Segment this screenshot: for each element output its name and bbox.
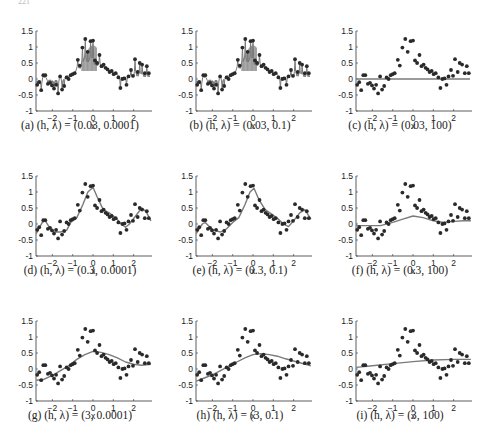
data-point xyxy=(467,216,471,220)
data-point xyxy=(303,216,307,220)
data-point xyxy=(403,182,407,186)
data-point xyxy=(37,370,41,374)
data-point xyxy=(380,233,384,237)
data-point xyxy=(376,382,380,386)
data-point xyxy=(243,182,247,186)
data-point xyxy=(212,87,216,91)
data-point xyxy=(145,209,149,213)
data-point xyxy=(296,360,300,364)
y-tick-label: -0.5 xyxy=(18,235,33,245)
data-point xyxy=(236,348,240,352)
data-point xyxy=(380,88,384,92)
data-point xyxy=(378,75,382,79)
data-point xyxy=(236,58,240,62)
data-point xyxy=(197,370,201,374)
data-point xyxy=(274,71,278,75)
data-point xyxy=(411,329,415,333)
data-point xyxy=(255,351,259,355)
y-tick-label: 1 xyxy=(348,42,353,52)
data-point xyxy=(285,228,289,232)
data-point xyxy=(39,88,43,92)
data-point xyxy=(241,46,245,50)
y-tick-label: 1 xyxy=(348,332,353,342)
data-point xyxy=(127,365,131,369)
data-point xyxy=(91,184,95,188)
data-point xyxy=(460,208,464,212)
y-tick-label: -0.5 xyxy=(338,235,353,245)
data-point xyxy=(456,215,460,219)
data-point xyxy=(287,220,291,224)
data-point xyxy=(262,63,266,67)
data-point xyxy=(357,370,361,374)
data-point xyxy=(403,327,407,331)
data-point xyxy=(382,84,386,88)
y-tick-label: 1 xyxy=(28,42,33,52)
data-point xyxy=(54,228,58,232)
data-point xyxy=(422,353,426,357)
data-point xyxy=(218,75,222,79)
data-point xyxy=(357,80,361,84)
data-point xyxy=(285,373,289,377)
data-point xyxy=(238,354,242,358)
data-point xyxy=(291,74,295,78)
data-point xyxy=(293,57,297,61)
data-point xyxy=(62,84,66,88)
y-tick-label: -0.5 xyxy=(178,90,193,100)
data-point xyxy=(227,222,231,226)
data-point xyxy=(203,218,207,222)
data-point xyxy=(119,86,123,90)
y-tick-label: 0 xyxy=(28,74,33,84)
data-point xyxy=(67,367,71,371)
data-point xyxy=(363,73,367,77)
y-tick-label: -1 xyxy=(185,106,193,116)
data-point xyxy=(415,351,419,355)
data-point xyxy=(123,77,127,81)
data-point xyxy=(246,50,250,54)
data-point xyxy=(58,75,62,79)
data-point xyxy=(296,70,300,74)
data-point xyxy=(285,83,289,87)
y-tick-label: 0 xyxy=(188,364,193,374)
data-point xyxy=(50,84,54,88)
data-point xyxy=(274,361,278,365)
data-point xyxy=(119,376,123,380)
data-point xyxy=(147,361,151,365)
subplot-f: -1-0.500.511.5−2−1012x(f) (h, λ) = (0.3,… xyxy=(320,145,480,290)
data-point xyxy=(125,228,129,232)
y-tick-label: 1 xyxy=(28,187,33,197)
data-point xyxy=(439,376,443,380)
data-point xyxy=(222,84,226,88)
y-tick-label: -1 xyxy=(185,251,193,261)
data-point xyxy=(289,358,293,362)
data-point xyxy=(277,221,281,225)
data-point xyxy=(39,378,43,382)
data-point xyxy=(233,216,237,220)
subplot-g: -1-0.500.511.5−2−1012x(g) (h, λ) = (3, 0… xyxy=(0,290,160,435)
data-point xyxy=(445,373,449,377)
data-point xyxy=(86,340,90,344)
data-point xyxy=(212,232,216,236)
data-point xyxy=(119,231,123,235)
data-point xyxy=(54,373,58,377)
data-point xyxy=(241,191,245,195)
data-point xyxy=(451,74,455,78)
data-point xyxy=(67,222,71,226)
data-point xyxy=(136,360,140,364)
subplot-caption: (e) (h, λ) = (0.3, 0.1) xyxy=(160,264,320,276)
data-point xyxy=(300,353,304,357)
y-tick-label: 1.5 xyxy=(341,26,353,36)
data-point xyxy=(203,73,207,77)
data-point xyxy=(131,74,135,78)
data-point xyxy=(439,86,443,90)
data-point xyxy=(376,92,380,96)
data-point xyxy=(56,382,60,386)
data-point xyxy=(463,71,467,75)
data-point xyxy=(98,53,102,57)
data-point xyxy=(396,58,400,62)
data-point xyxy=(449,213,453,217)
data-point xyxy=(233,71,237,75)
y-tick-label: 0.5 xyxy=(341,58,353,68)
data-point xyxy=(216,382,220,386)
subplot-caption: (i) (h, λ) = (3, 100) xyxy=(320,409,480,421)
y-tick-label: 0.5 xyxy=(181,58,193,68)
